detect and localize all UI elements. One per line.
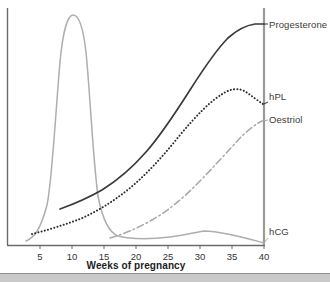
series-label-hcg: hCG <box>269 226 289 237</box>
footer-bar <box>0 273 330 282</box>
x-axis-title: Weeks of pregnancy <box>0 260 272 271</box>
series-label-hpl: hPL <box>269 91 286 102</box>
series-label-oestriol: Oestriol <box>269 114 303 125</box>
series-label-progesterone: Progesterone <box>269 19 327 30</box>
